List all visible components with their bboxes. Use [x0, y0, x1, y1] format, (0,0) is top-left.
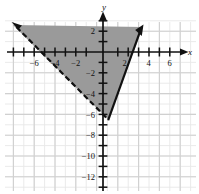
y-tick-label-neg6: −6 [86, 110, 95, 120]
x-tick-label-neg4: −4 [50, 58, 60, 68]
y-axis-label: y [101, 2, 106, 12]
x-axis-label: x [187, 47, 192, 57]
y-tick-label-neg10: −10 [82, 151, 95, 161]
y-tick-label-2: 2 [91, 26, 95, 36]
graph-canvas: x y −6 −4 −2 2 4 6 2 −2 −4 −6 −8 −10 −12 [0, 0, 199, 194]
y-tick-label-neg4: −4 [86, 89, 96, 99]
x-tick-label-2: 2 [122, 58, 126, 68]
y-tick-label-neg2: −2 [86, 68, 95, 78]
x-tick-label-neg6: −6 [30, 58, 39, 68]
y-tick-label-neg12: −12 [82, 172, 95, 182]
x-tick-label-6: 6 [167, 58, 171, 68]
coordinate-graph-figure: x y −6 −4 −2 2 4 6 2 −2 −4 −6 −8 −10 −12 [0, 0, 199, 194]
x-tick-label-neg2: −2 [71, 58, 80, 68]
y-tick-label-neg8: −8 [86, 130, 95, 140]
